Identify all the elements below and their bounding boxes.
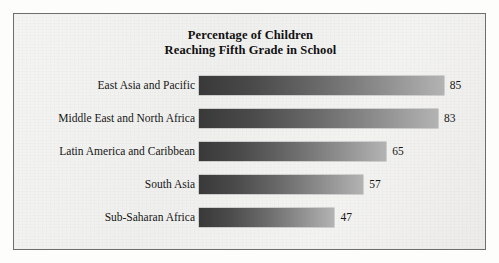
bar-row: Latin America and Caribbean 65 <box>14 142 486 161</box>
bar <box>199 175 363 194</box>
bar-value-label: 57 <box>369 175 381 194</box>
bar-row: South Asia 57 <box>14 175 486 194</box>
bar-value-label: 85 <box>450 76 462 95</box>
chart-title-line-1: Percentage of Children <box>14 28 486 43</box>
bar-row: Middle East and North Africa 83 <box>14 109 486 128</box>
bar-value-label: 65 <box>392 142 404 161</box>
bar-track: 83 <box>199 109 486 128</box>
bar-row: Sub-Saharan Africa 47 <box>14 208 486 227</box>
chart-figure: Percentage of Children Reaching Fifth Gr… <box>0 0 499 263</box>
bar-value-label: 83 <box>444 109 456 128</box>
chart-title-line-2: Reaching Fifth Grade in School <box>14 43 486 58</box>
bar-row: East Asia and Pacific 85 <box>14 76 486 95</box>
bar-track: 85 <box>199 76 486 95</box>
bar <box>199 76 444 95</box>
category-label: Middle East and North Africa <box>14 109 195 128</box>
chart-title: Percentage of Children Reaching Fifth Gr… <box>14 28 486 58</box>
plot-area: East Asia and Pacific 85 Middle East and… <box>14 76 486 236</box>
bar <box>199 208 334 227</box>
category-label: Sub-Saharan Africa <box>14 208 195 227</box>
category-label: South Asia <box>14 175 195 194</box>
category-label: Latin America and Caribbean <box>14 142 195 161</box>
category-label: East Asia and Pacific <box>14 76 195 95</box>
bar <box>199 109 438 128</box>
bar-value-label: 47 <box>340 208 352 227</box>
bar <box>199 142 386 161</box>
bar-track: 47 <box>199 208 486 227</box>
bar-track: 65 <box>199 142 486 161</box>
bar-track: 57 <box>199 175 486 194</box>
chart-plate: Percentage of Children Reaching Fifth Gr… <box>13 13 486 250</box>
